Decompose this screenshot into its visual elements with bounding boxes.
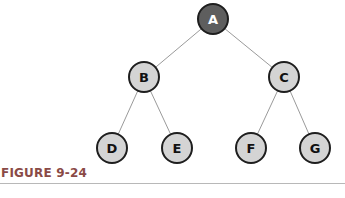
node-f: F xyxy=(236,133,266,163)
node-label: G xyxy=(310,141,321,156)
node-g: G xyxy=(300,133,330,163)
node-c: C xyxy=(269,62,299,92)
node-label: C xyxy=(279,70,289,85)
figure-caption: FIGURE 9-24 xyxy=(1,166,87,180)
node-label: D xyxy=(107,141,118,156)
node-e: E xyxy=(162,133,192,163)
node-a: A xyxy=(198,4,228,34)
caption-divider xyxy=(0,183,345,184)
node-b: B xyxy=(129,62,159,92)
node-d: D xyxy=(97,133,127,163)
node-label: F xyxy=(247,141,256,156)
node-label: E xyxy=(173,141,182,156)
node-label: A xyxy=(208,12,218,27)
node-label: B xyxy=(139,70,149,85)
